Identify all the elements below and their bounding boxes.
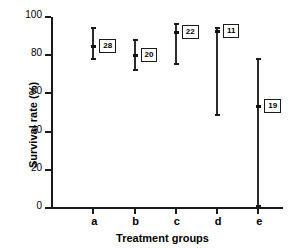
y-axis-tick: 100	[45, 16, 51, 18]
x-axis-tick-label: a	[84, 215, 104, 228]
x-axis-tick	[134, 209, 136, 214]
x-axis-title: Treatment groups	[0, 232, 297, 244]
range-cap-lower	[174, 63, 179, 65]
sample-size-label: 28	[99, 39, 116, 53]
range-cap-lower	[133, 69, 138, 71]
y-axis-tick: 20	[45, 169, 51, 171]
range-bar	[175, 24, 177, 64]
range-cap-upper	[91, 27, 96, 29]
mean-marker	[91, 45, 96, 48]
y-axis-line	[51, 17, 53, 209]
x-axis-tick-label: d	[208, 215, 228, 228]
y-axis-tick: 60	[45, 92, 51, 94]
range-bar	[257, 59, 259, 206]
x-axis-tick-label: b	[126, 215, 146, 228]
mean-marker	[215, 30, 220, 33]
x-axis-tick-label: c	[167, 215, 187, 228]
x-axis-tick	[92, 209, 94, 214]
sample-size-label: 11	[223, 24, 239, 38]
sample-size-label: 20	[141, 48, 158, 62]
x-axis-tick	[216, 209, 218, 214]
x-axis-tick	[257, 209, 259, 214]
x-axis-title-text: Treatment groups	[116, 232, 209, 244]
y-axis-tick-label: 0	[14, 200, 42, 212]
mean-marker	[256, 105, 261, 108]
range-cap-upper	[215, 27, 220, 29]
y-axis-tick-label: 80	[14, 47, 42, 59]
x-axis-tick	[175, 209, 177, 214]
x-axis-tick-label: e	[249, 215, 269, 228]
range-cap-lower	[215, 114, 220, 116]
survival-rate-chart: Survival rate (%) 020406080100 abcde 282…	[0, 0, 297, 249]
mean-marker	[174, 31, 179, 34]
y-axis-tick: 0	[45, 207, 51, 209]
y-axis-tick-label: 20	[14, 162, 42, 174]
sample-size-label: 22	[182, 25, 199, 39]
y-axis-tick: 40	[45, 131, 51, 133]
range-cap-lower	[256, 205, 261, 207]
range-cap-upper	[133, 39, 138, 41]
mean-marker	[133, 54, 138, 57]
y-axis-tick-label: 40	[14, 124, 42, 136]
range-cap-upper	[256, 58, 261, 60]
x-axis-line	[51, 207, 283, 209]
sample-size-label: 19	[264, 99, 281, 113]
y-axis-tick-label: 60	[14, 85, 42, 97]
range-bar	[216, 28, 218, 115]
range-cap-lower	[91, 58, 96, 60]
range-cap-upper	[174, 23, 179, 25]
y-axis-tick-label: 100	[14, 9, 42, 21]
y-axis-tick: 80	[45, 54, 51, 56]
